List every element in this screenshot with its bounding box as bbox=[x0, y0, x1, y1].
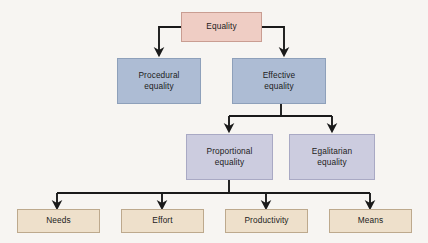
node-equality[interactable]: Equality bbox=[181, 12, 262, 42]
diagram-canvas: Equality Procedural equality Effective e… bbox=[0, 0, 428, 243]
node-egalitarian-equality[interactable]: Egalitarian equality bbox=[289, 134, 375, 180]
node-means-label: Means bbox=[356, 215, 385, 226]
node-effort-label: Effort bbox=[150, 215, 174, 226]
node-proportional-equality-label: Proportional equality bbox=[205, 146, 255, 168]
node-productivity[interactable]: Productivity bbox=[225, 209, 308, 233]
node-needs-label: Needs bbox=[44, 215, 72, 226]
node-egalitarian-equality-label: Egalitarian equality bbox=[310, 146, 354, 168]
node-effective-equality[interactable]: Effective equality bbox=[232, 58, 326, 104]
node-procedural-equality[interactable]: Procedural equality bbox=[117, 58, 201, 104]
node-effective-equality-label: Effective equality bbox=[261, 70, 298, 92]
node-effort[interactable]: Effort bbox=[121, 209, 204, 233]
node-procedural-equality-label: Procedural equality bbox=[136, 70, 181, 92]
edge-root-to-procedural bbox=[159, 27, 181, 52]
node-productivity-label: Productivity bbox=[242, 215, 290, 226]
node-equality-label: Equality bbox=[204, 21, 238, 32]
edge-effective-to-level3 bbox=[229, 104, 332, 128]
edge-root-to-effective bbox=[262, 27, 284, 52]
node-needs[interactable]: Needs bbox=[17, 209, 100, 233]
node-means[interactable]: Means bbox=[329, 209, 412, 233]
node-proportional-equality[interactable]: Proportional equality bbox=[186, 134, 273, 180]
edge-proportional-to-leaves bbox=[57, 180, 370, 205]
